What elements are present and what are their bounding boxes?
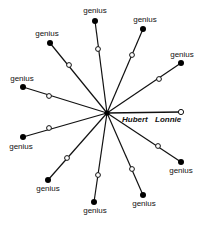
genius-node-icon bbox=[91, 199, 97, 205]
genius-node-icon bbox=[178, 60, 184, 66]
genius-label: genius bbox=[83, 6, 107, 15]
open-node-icon bbox=[96, 47, 101, 52]
name-label-lonnie: Lonnie bbox=[155, 115, 182, 124]
open-node-icon bbox=[65, 156, 70, 161]
genius-label: genius bbox=[10, 74, 34, 83]
spoke-line bbox=[23, 113, 107, 137]
genius-label: genius bbox=[83, 206, 107, 215]
hub-node-icon bbox=[104, 110, 109, 115]
genius-label: genius bbox=[35, 29, 59, 38]
genius-node-icon bbox=[47, 40, 53, 46]
genius-label: genius bbox=[36, 184, 60, 193]
genius-node-icon bbox=[20, 84, 26, 90]
genius-node-icon bbox=[178, 159, 184, 165]
name-label-hubert: Hubert bbox=[122, 115, 148, 124]
genius-node-icon bbox=[92, 18, 98, 24]
spoke-line bbox=[50, 43, 107, 113]
genius-label: genius bbox=[132, 199, 156, 208]
genius-node-icon bbox=[140, 192, 146, 198]
spokes-group: geniusgeniusgeniusgeniusgeniusgeniusgeni… bbox=[9, 6, 194, 215]
genius-node-icon bbox=[140, 26, 146, 32]
open-node-icon bbox=[130, 53, 135, 58]
genius-label: genius bbox=[169, 166, 193, 175]
open-node-icon bbox=[157, 77, 162, 82]
open-node-icon bbox=[67, 63, 72, 68]
center-person: Hubert Lonnie bbox=[104, 109, 183, 124]
spoke-line bbox=[95, 21, 107, 113]
open-node-icon bbox=[47, 126, 52, 131]
open-node-icon bbox=[156, 144, 161, 149]
spoke-line bbox=[23, 87, 107, 113]
open-node-icon bbox=[47, 94, 52, 99]
open-node-icon bbox=[96, 173, 101, 178]
genius-node-icon bbox=[20, 134, 26, 140]
genius-label: genius bbox=[133, 15, 157, 24]
network-diagram: geniusgeniusgeniusgeniusgeniusgeniusgeni… bbox=[0, 0, 202, 226]
open-node-icon bbox=[178, 109, 183, 114]
genius-label: genius bbox=[9, 142, 33, 151]
open-node-icon bbox=[130, 167, 135, 172]
genius-node-icon bbox=[45, 177, 51, 183]
genius-label: genius bbox=[170, 50, 194, 59]
center-spoke-line bbox=[107, 112, 181, 113]
